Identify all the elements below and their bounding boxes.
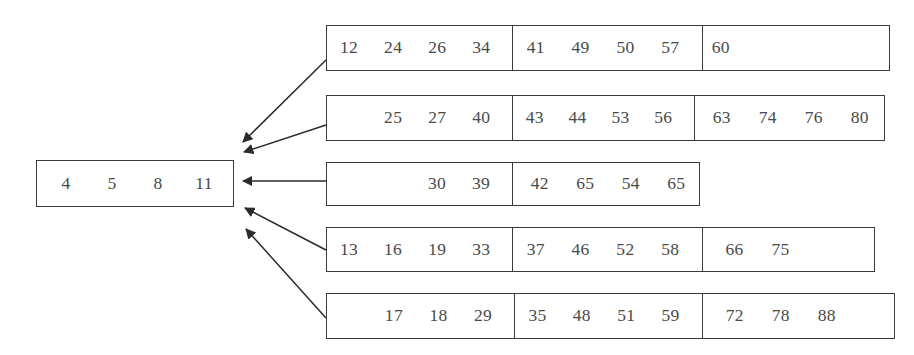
run-cell: 80	[837, 109, 883, 127]
run-segment: 72 78 88	[703, 294, 894, 338]
arrow-run-1	[243, 60, 326, 142]
run-cell: 18	[416, 307, 461, 325]
run-cell: 29	[461, 307, 506, 325]
run-cell: 34	[459, 39, 503, 57]
run-segment: 60	[703, 26, 889, 70]
run-cell: 56	[642, 109, 685, 127]
run-cell: 37	[513, 241, 558, 259]
output-buffer-box: 4 5 8 11	[36, 160, 234, 207]
run-cell: 52	[603, 241, 648, 259]
run-segment: 17 18 29	[327, 294, 515, 338]
run-cell: 48	[560, 307, 604, 325]
run-cell: 35	[515, 307, 559, 325]
run-segment: 42 65 54 65	[513, 163, 699, 205]
run-cell: 24	[371, 39, 415, 57]
run-segment: 37 46 52 58	[513, 228, 702, 271]
arrow-run-4	[245, 208, 326, 250]
run-cell: 58	[648, 241, 693, 259]
run-cell: 41	[513, 39, 558, 57]
run-box: 25 27 40 43 44 53 56 63 74 76 80	[326, 95, 885, 141]
run-cell: 75	[758, 241, 804, 259]
run-segment: 12 24 26 34	[327, 26, 513, 70]
run-segment: 41 49 50 57	[513, 26, 702, 70]
run-cell: 59	[648, 307, 692, 325]
run-cell: 49	[558, 39, 603, 57]
run-cell: 13	[327, 241, 371, 259]
run-cell: 43	[513, 109, 556, 127]
output-cell: 5	[89, 175, 135, 193]
run-cell: 42	[517, 175, 563, 193]
output-cell: 8	[135, 175, 181, 193]
run-cell: 53	[599, 109, 642, 127]
run-cell: 44	[556, 109, 599, 127]
run-cell: 78	[758, 307, 804, 325]
output-buffer-segment: 4 5 8 11	[37, 161, 233, 206]
run-cell: 51	[604, 307, 648, 325]
merge-diagram: 4 5 8 11 12 24 26 34 41 49 50 57 60 25 2…	[0, 0, 914, 355]
run-cell: 54	[608, 175, 654, 193]
run-segment: 25 27 40	[327, 96, 513, 140]
run-segment: 30 39	[327, 163, 513, 205]
run-segment: 13 16 19 33	[327, 228, 513, 271]
run-cell: 66	[712, 241, 758, 259]
run-cell: 65	[654, 175, 699, 193]
run-cell: 65	[563, 175, 609, 193]
output-cell: 11	[181, 175, 227, 193]
run-cell: 40	[459, 109, 503, 127]
run-cell: 60	[712, 39, 758, 57]
run-cell: 74	[745, 109, 791, 127]
output-cell: 4	[43, 175, 89, 193]
run-cell: 19	[415, 241, 459, 259]
run-cell: 39	[459, 175, 503, 193]
run-cell: 17	[372, 307, 417, 325]
run-cell: 76	[791, 109, 837, 127]
run-cell: 25	[371, 109, 415, 127]
run-box: 13 16 19 33 37 46 52 58 66 75	[326, 227, 875, 272]
run-cell: 88	[804, 307, 850, 325]
run-box: 30 39 42 65 54 65	[326, 162, 700, 206]
run-cell: 63	[699, 109, 745, 127]
run-segment: 63 74 76 80	[695, 96, 884, 140]
run-cell: 57	[648, 39, 693, 57]
run-box: 12 24 26 34 41 49 50 57 60	[326, 25, 890, 71]
run-segment: 43 44 53 56	[513, 96, 694, 140]
run-segment: 66 75	[703, 228, 874, 271]
run-box: 17 18 29 35 48 51 59 72 78 88	[326, 293, 895, 339]
run-cell: 50	[603, 39, 648, 57]
run-segment: 35 48 51 59	[515, 294, 702, 338]
run-cell: 46	[558, 241, 603, 259]
run-cell: 30	[415, 175, 459, 193]
arrow-run-2	[244, 125, 326, 152]
run-cell: 72	[712, 307, 758, 325]
run-cell: 33	[459, 241, 503, 259]
run-cell: 27	[415, 109, 459, 127]
run-cell: 12	[327, 39, 371, 57]
arrow-run-5	[246, 229, 326, 318]
run-cell: 16	[371, 241, 415, 259]
run-cell: 26	[415, 39, 459, 57]
